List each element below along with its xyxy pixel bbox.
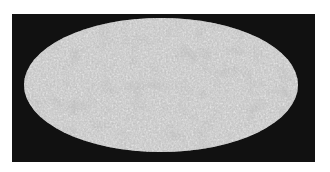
map-frame [12,14,315,162]
sky-map-ellipse [12,14,315,162]
